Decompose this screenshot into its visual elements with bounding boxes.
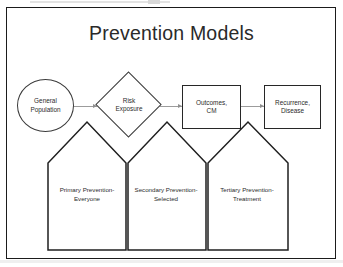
prevention-models-slide: Prevention Models Primary Prevention- Ev… bbox=[0, 0, 343, 267]
house-label-tertiary: Tertiary Prevention- Treatment bbox=[206, 186, 288, 204]
prevention-houses-group bbox=[0, 0, 343, 267]
node-label-recurrence-disease: Recurrence, Disease bbox=[275, 99, 310, 115]
node-risk-exposure: Risk Exposure bbox=[96, 72, 162, 138]
house-label-primary: Primary Prevention- Everyone bbox=[47, 186, 127, 204]
node-recurrence-disease: Recurrence, Disease bbox=[264, 85, 321, 129]
node-general-population: General Population bbox=[17, 79, 74, 132]
node-label-general-population: General Population bbox=[30, 97, 60, 113]
node-label-risk-exposure: Risk Exposure bbox=[116, 97, 143, 113]
node-outcomes-cm: Outcomes, CM bbox=[182, 85, 241, 129]
house-label-secondary: Secondary Prevention- Selected bbox=[126, 186, 206, 204]
diamond-label-wrap: Risk Exposure bbox=[96, 72, 162, 138]
node-label-outcomes-cm: Outcomes, CM bbox=[196, 99, 227, 115]
